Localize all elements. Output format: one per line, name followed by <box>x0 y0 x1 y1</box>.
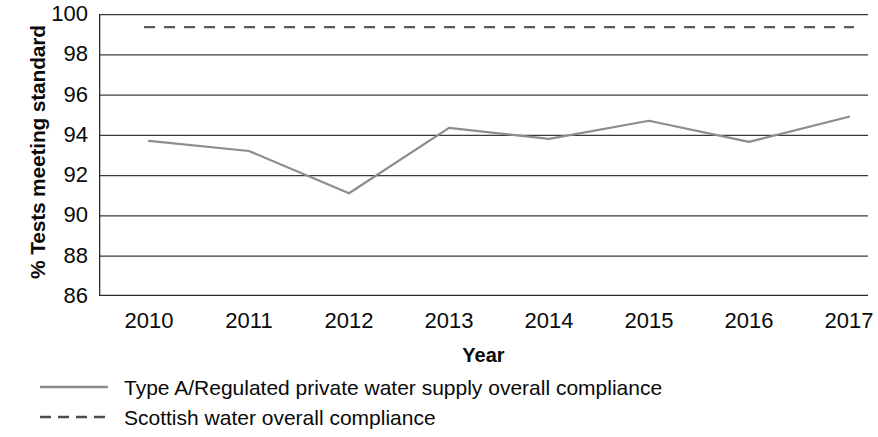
gridlines <box>99 15 868 297</box>
y-axis-tick-label: 96 <box>28 84 88 106</box>
legend-item-type-a-private-supply: Type A/Regulated private water supply ov… <box>38 372 858 402</box>
data-series-layer <box>144 27 854 193</box>
legend-solid-line-icon <box>38 380 110 394</box>
legend-dashed-line-icon <box>38 410 110 424</box>
legend-swatch-solid-icon <box>38 380 110 394</box>
axis-lines <box>99 15 868 297</box>
y-axis-tick-label: 88 <box>28 245 88 267</box>
legend-label-type-a-private-supply: Type A/Regulated private water supply ov… <box>124 377 662 398</box>
x-axis-tick-label-2015: 2015 <box>599 310 699 332</box>
x-axis-tick-label-2017: 2017 <box>799 310 878 332</box>
plot-svg <box>99 14 868 296</box>
legend-item-scottish-water: Scottish water overall compliance <box>38 402 858 432</box>
legend: Type A/Regulated private water supply ov… <box>38 372 858 432</box>
y-axis-tick-label: 100 <box>28 3 88 25</box>
x-axis-tick-label-group: 20102011201220132014201520162017 <box>0 296 868 342</box>
y-axis-tick-label: 90 <box>28 204 88 226</box>
y-axis-tick-label: 94 <box>28 124 88 146</box>
x-axis-tick-label-2011: 2011 <box>199 310 299 332</box>
legend-swatch-dashed-icon <box>38 410 110 424</box>
y-axis-tick-label: 92 <box>28 164 88 186</box>
x-axis-tick-label-2012: 2012 <box>299 310 399 332</box>
legend-label-scottish-water: Scottish water overall compliance <box>124 407 436 428</box>
x-axis-tick-label-2016: 2016 <box>699 310 799 332</box>
x-axis-tick-label-2013: 2013 <box>399 310 499 332</box>
x-axis-tick-label-2014: 2014 <box>499 310 599 332</box>
plot-area <box>99 14 868 296</box>
x-axis-title: Year <box>99 344 868 367</box>
y-axis-tick-label-group: 10098969492908886 <box>26 0 88 310</box>
y-axis-tick-label: 98 <box>28 43 88 65</box>
x-axis-tick-label-2010: 2010 <box>99 310 199 332</box>
series-line-type-a-private-supply <box>149 117 849 194</box>
